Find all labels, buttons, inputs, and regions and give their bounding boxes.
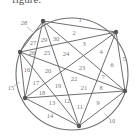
region-label: 16: [24, 66, 31, 73]
region-label: 5: [122, 55, 125, 62]
circle-chord-diagram: 1234567891011121314151617181920212223242…: [0, 0, 139, 138]
region-label: 18: [39, 89, 46, 96]
region-label: 26: [29, 49, 36, 56]
region-label: 29: [41, 36, 48, 43]
region-label: 8: [99, 84, 102, 91]
vertex-D: [123, 89, 127, 93]
region-label: 24: [63, 50, 70, 57]
region-label: 4: [99, 48, 103, 55]
region-label: 20: [45, 67, 52, 74]
region-label: 12: [64, 97, 71, 104]
region-label: 13: [49, 99, 56, 106]
region-label: 15: [8, 84, 15, 91]
region-label: 22: [71, 75, 78, 82]
region-label: 27: [30, 39, 37, 46]
vertex-E: [23, 96, 27, 100]
region-label: 21: [81, 84, 88, 91]
region-label: 28: [21, 19, 28, 26]
vertex-A: [41, 19, 45, 23]
region-label: 1: [78, 16, 81, 23]
region-label: 25: [44, 49, 51, 56]
region-label: 19: [55, 82, 62, 89]
vertex-B: [114, 30, 118, 34]
region-label: 11: [77, 103, 83, 110]
vertex-C: [18, 50, 22, 54]
leader-line: [27, 27, 33, 32]
region-label: 17: [33, 79, 40, 86]
region-label: 3: [82, 40, 85, 47]
region-label: 10: [109, 117, 116, 124]
chord-EC: [20, 52, 25, 98]
region-label: 14: [47, 112, 54, 119]
region-label: 7: [101, 73, 105, 80]
region-label: 9: [96, 99, 99, 106]
region-label: 30: [53, 35, 60, 42]
region-label: 2: [72, 29, 75, 36]
vertex-F: [77, 124, 81, 128]
region-label: 6: [110, 61, 114, 68]
region-label: 23: [79, 64, 86, 71]
